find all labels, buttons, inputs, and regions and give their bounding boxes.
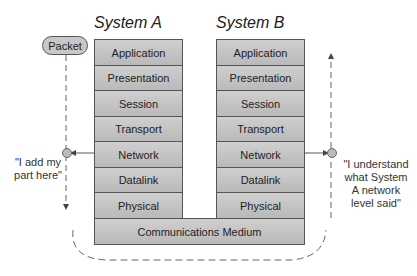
system-a-layer-session: Session — [94, 90, 183, 117]
system-a-layer-application: Application — [94, 39, 183, 66]
system-a-layer-presentation: Presentation — [94, 65, 183, 91]
left-annotation-line: "I add my — [10, 156, 66, 169]
system-b-title: System B — [216, 14, 284, 32]
left-annotation-line: part here" — [10, 169, 66, 182]
right-annotation-line: level said" — [334, 197, 417, 210]
system-b-layer-transport: Transport — [216, 116, 305, 142]
system-b-layer-physical: Physical — [216, 192, 305, 219]
system-b-layer-application: Application — [216, 39, 305, 66]
packet-label: Packet — [42, 36, 88, 55]
right-annotation-line: "I understand — [334, 158, 417, 171]
right-annotation-line: A network — [334, 184, 417, 197]
right-annotation: "I understand what System A network leve… — [334, 158, 417, 210]
system-a-layer-transport: Transport — [94, 116, 183, 142]
system-a-layer-datalink: Datalink — [94, 167, 183, 193]
system-a-layer-network: Network — [94, 141, 183, 168]
right-annotation-line: what System — [334, 171, 417, 184]
system-b-layer-datalink: Datalink — [216, 167, 305, 193]
system-a-title: System A — [94, 14, 162, 32]
communications-medium: Communications Medium — [94, 218, 305, 245]
system-b-layer-network: Network — [216, 141, 305, 168]
left-annotation: "I add my part here" — [10, 156, 66, 182]
system-a-layer-physical: Physical — [94, 192, 183, 219]
system-b-layer-session: Session — [216, 90, 305, 117]
system-b-layer-presentation: Presentation — [216, 65, 305, 91]
